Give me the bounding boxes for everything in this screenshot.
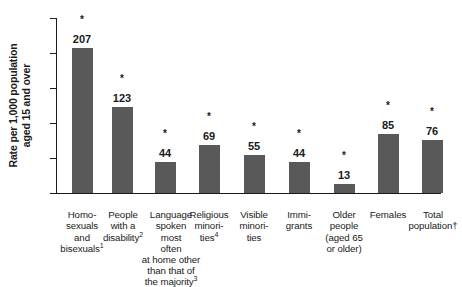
- y-axis-title: Rate per 1,000 population aged 15 and ov…: [7, 11, 32, 201]
- category-label-text: Total population†: [409, 209, 458, 231]
- bar-value-label: 44: [279, 148, 319, 159]
- y-axis-line: [56, 18, 57, 193]
- bar: [289, 162, 310, 193]
- bar-value-label: 85: [368, 120, 408, 131]
- category-label-text: Religious minori- ties: [190, 209, 229, 242]
- bar-value-label: 123: [102, 93, 142, 104]
- bar-value-label: 76: [412, 126, 452, 137]
- bar-value-label: 44: [145, 148, 185, 159]
- bar: [244, 155, 265, 194]
- y-tick-250: [50, 18, 56, 19]
- significance-marker: *: [189, 113, 229, 120]
- category-label-text: Immi- grants: [286, 209, 312, 231]
- bar-value-label: 13: [324, 170, 364, 181]
- significance-marker: *: [234, 123, 274, 130]
- footnote-marker: 3: [194, 275, 198, 282]
- significance-marker: *: [145, 130, 185, 137]
- bar: [155, 162, 176, 193]
- category-label-total-population: Total population†: [402, 198, 462, 232]
- significance-marker: *: [279, 130, 319, 137]
- bar-value-label: 55: [234, 141, 274, 152]
- significance-marker: *: [412, 108, 452, 115]
- category-label-text: Homo- sexuals and bisexuals: [60, 209, 100, 254]
- category-label-text: Females: [370, 209, 406, 220]
- bar-value-label: 207: [62, 34, 102, 45]
- bar: [422, 140, 443, 193]
- bar: [378, 134, 399, 194]
- significance-marker: *: [368, 102, 408, 109]
- footnote-marker: 4: [214, 230, 218, 237]
- y-tick-100: [50, 123, 56, 124]
- significance-marker: *: [62, 16, 102, 23]
- bar: [334, 184, 355, 193]
- category-label-text: Visible minori- ties: [240, 209, 269, 242]
- category-label-text: Older people (aged 65 or older): [325, 209, 362, 254]
- significance-marker: *: [102, 75, 142, 82]
- x-axis-line: [56, 193, 441, 194]
- bar: [72, 48, 93, 193]
- y-tick-50: [50, 158, 56, 159]
- y-tick-200: [50, 53, 56, 54]
- bar: [199, 145, 220, 193]
- significance-marker: *: [324, 152, 364, 159]
- plot-area: 250 200 150 100 50 0 * 207 * 123 * 44: [62, 18, 449, 193]
- y-tick-150: [50, 88, 56, 89]
- y-tick-0: [50, 193, 56, 194]
- x-axis-category-labels: Homo- sexuals and bisexuals1 People with…: [62, 198, 449, 286]
- bar-value-label: 69: [189, 131, 229, 142]
- bar: [112, 107, 133, 193]
